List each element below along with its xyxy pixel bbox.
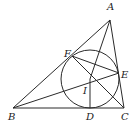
label-i: I	[82, 85, 88, 96]
label-d: D	[85, 111, 94, 122]
cevians	[13, 20, 124, 108]
label-f: F	[63, 48, 72, 59]
label-b: B	[7, 111, 15, 122]
segment-fc	[72, 56, 124, 108]
segment-be	[13, 73, 119, 108]
geometry-diagram: A B C D E F I	[0, 0, 137, 125]
label-c: C	[121, 111, 129, 122]
label-a: A	[106, 1, 114, 12]
triangle-abc	[13, 20, 124, 108]
side-ca	[110, 20, 124, 108]
label-e: E	[120, 69, 129, 80]
segment-fe	[72, 56, 119, 73]
